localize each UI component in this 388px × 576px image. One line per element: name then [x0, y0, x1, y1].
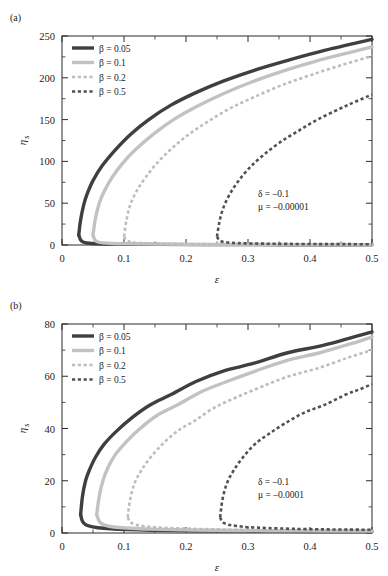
legend-label: β = 0.2 [99, 73, 126, 83]
x-tick-label: 0.1 [117, 253, 130, 264]
series-curve [128, 350, 372, 517]
y-axis-title: ηs [16, 136, 31, 146]
x-axis-title: ε [215, 561, 220, 573]
y-tick-label: 50 [45, 198, 56, 209]
y-tick-label: 80 [45, 319, 56, 330]
svg-text:ηs: ηs [16, 424, 31, 434]
legend-label: β = 0.05 [99, 44, 131, 54]
x-tick-label: 0.4 [303, 253, 317, 264]
series-curve [93, 47, 372, 235]
annotation-mu: μ = –0.0001 [258, 490, 304, 500]
y-tick-label: 100 [39, 156, 55, 167]
x-tick-label: 0.5 [365, 253, 378, 264]
figure-root: (a) 00.10.20.30.40.5050100150200250εηsβ … [0, 0, 388, 576]
y-tick-label: 0 [50, 528, 55, 539]
series-curve [220, 517, 372, 529]
x-tick-label: 0.5 [365, 541, 378, 552]
legend-label: β = 0.1 [99, 346, 126, 356]
x-tick-label: 0.2 [179, 541, 192, 552]
y-tick-label: 150 [39, 115, 55, 126]
y-tick-label: 0 [50, 240, 55, 251]
panel-b-plot: 00.10.20.30.40.5020406080εηsβ = 0.05β = … [0, 288, 388, 576]
y-tick-label: 200 [39, 73, 55, 84]
series-curve [217, 95, 372, 237]
panel-a: (a) 00.10.20.30.40.5050100150200250εηsβ … [0, 0, 388, 288]
y-tick-label: 20 [45, 476, 56, 487]
x-tick-label: 0.4 [303, 541, 317, 552]
legend-label: β = 0.5 [99, 375, 126, 385]
x-axis-title: ε [215, 273, 220, 285]
annotation-mu: μ = –0.00001 [258, 202, 309, 212]
legend-label: β = 0.5 [99, 87, 126, 97]
legend-label: β = 0.05 [99, 332, 131, 342]
legend-label: β = 0.1 [99, 58, 126, 68]
y-tick-label: 250 [39, 31, 55, 42]
x-tick-label: 0.3 [241, 253, 254, 264]
panel-a-plot: 00.10.20.30.40.5050100150200250εηsβ = 0.… [0, 0, 388, 288]
series-curve [97, 337, 372, 515]
annotation-delta: δ = –0.1 [258, 477, 289, 487]
y-tick-label: 40 [45, 424, 56, 435]
x-tick-label: 0 [59, 541, 64, 552]
legend-label: β = 0.2 [99, 361, 126, 371]
annotation-delta: δ = –0.1 [258, 189, 289, 199]
x-tick-label: 0.1 [117, 541, 130, 552]
panel-b: (b) 00.10.20.30.40.5020406080εηsβ = 0.05… [0, 288, 388, 576]
y-axis-title: ηs [16, 424, 31, 434]
x-tick-label: 0 [59, 253, 64, 264]
y-tick-label: 60 [45, 371, 56, 382]
x-tick-label: 0.3 [241, 541, 254, 552]
svg-text:ηs: ηs [16, 136, 31, 146]
x-tick-label: 0.2 [179, 253, 192, 264]
